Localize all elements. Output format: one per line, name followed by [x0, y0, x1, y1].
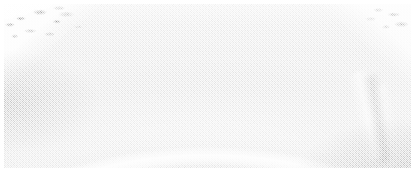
base-tone-layer	[4, 4, 411, 168]
right-streak-secondary	[324, 67, 411, 168]
film-grain-fine	[4, 4, 411, 168]
film-grain-coarse	[4, 4, 411, 168]
inner-bright-arc	[4, 4, 411, 168]
image-viewport	[0, 0, 415, 171]
grain-dither-1	[4, 4, 411, 168]
corner-mottle-texture-right	[315, 4, 411, 48]
dark-dome-region	[4, 4, 411, 168]
right-streak-shadow	[306, 55, 411, 168]
top-left-corner-wedge	[4, 4, 411, 168]
bottom-left-shading	[4, 4, 411, 168]
outer-light-field	[4, 4, 411, 168]
top-right-corner-wedge	[4, 4, 411, 168]
micrograph-canvas	[4, 4, 411, 168]
inner-basin-region	[4, 4, 411, 168]
grain-dither-2	[4, 4, 411, 168]
outer-rim-arc	[4, 4, 411, 168]
bottom-right-shading	[4, 4, 411, 168]
inner-arc-shadow	[4, 4, 411, 168]
corner-mottle-texture	[4, 4, 124, 56]
dome-outline-arc	[4, 4, 411, 168]
right-streak-primary	[298, 48, 411, 168]
